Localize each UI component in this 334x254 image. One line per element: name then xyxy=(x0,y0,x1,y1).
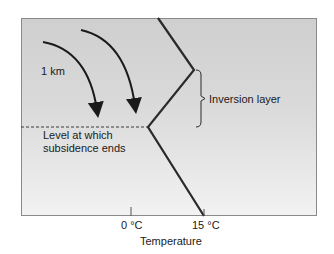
inversion-brace xyxy=(196,70,205,127)
inversion-layer-label: Inversion layer xyxy=(209,93,281,106)
subsidence-label-line2: subsidence ends xyxy=(43,142,126,155)
subsidence-label-line1: Level at which xyxy=(43,129,113,142)
subsidence-arrow-2 xyxy=(81,30,135,106)
x-axis-label: Temperature xyxy=(140,235,202,248)
altitude-label: 1 km xyxy=(41,65,65,78)
diagram-graphics xyxy=(0,0,334,254)
tick-label-15c: 15 °C xyxy=(192,219,220,232)
tick-label-0c: 0 °C xyxy=(121,219,143,232)
temperature-profile-line xyxy=(148,18,204,216)
